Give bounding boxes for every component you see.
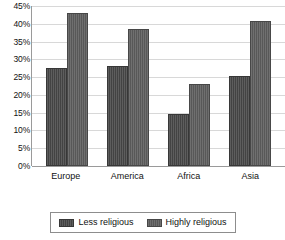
- legend-item[interactable]: Highly religious: [147, 218, 227, 227]
- axis-baseline: [32, 166, 285, 167]
- y-tick-label: 15%: [14, 108, 30, 117]
- plot-area: [31, 6, 285, 166]
- legend-swatch-icon: [147, 219, 162, 227]
- y-axis: 45%40%35%30%25%20%15%10%5%0%: [0, 6, 30, 178]
- bar-group: [36, 6, 97, 166]
- legend-swatch-icon: [59, 219, 74, 227]
- bar[interactable]: [168, 114, 189, 166]
- plot-wrapper: 45%40%35%30%25%20%15%10%5%0% EuropeAmeri…: [0, 6, 285, 178]
- y-tick-label: 10%: [14, 126, 30, 135]
- bar[interactable]: [107, 66, 128, 166]
- bar[interactable]: [67, 13, 88, 166]
- bar-group: [220, 6, 281, 166]
- x-axis: EuropeAmericaAfricaAsia: [31, 169, 285, 185]
- legend-item[interactable]: Less religious: [59, 218, 133, 227]
- y-tick-label: 40%: [14, 20, 30, 29]
- y-tick-label: 25%: [14, 73, 30, 82]
- x-tick-label: Africa: [158, 169, 220, 185]
- x-tick-label: America: [97, 169, 159, 185]
- y-tick-label: 30%: [14, 55, 30, 64]
- x-tick-label: Europe: [35, 169, 97, 185]
- bar-groups: [32, 6, 285, 166]
- y-tick-label: 5%: [18, 144, 30, 153]
- y-tick-label: 20%: [14, 91, 30, 100]
- bar-group: [159, 6, 220, 166]
- bar[interactable]: [229, 76, 250, 166]
- y-tick-label: 35%: [14, 37, 30, 46]
- bar[interactable]: [189, 84, 210, 166]
- legend-label: Less religious: [78, 218, 133, 227]
- legend-label: Highly religious: [166, 218, 227, 227]
- bar[interactable]: [46, 68, 67, 166]
- bar-group: [97, 6, 158, 166]
- bar[interactable]: [250, 21, 271, 166]
- y-tick-label: 0%: [18, 162, 30, 171]
- bar-chart: 45%40%35%30%25%20%15%10%5%0% EuropeAmeri…: [0, 0, 285, 240]
- bar[interactable]: [128, 29, 149, 166]
- x-tick-label: Asia: [220, 169, 282, 185]
- y-tick-label: 45%: [14, 2, 30, 11]
- legend: Less religiousHighly religious: [50, 212, 236, 233]
